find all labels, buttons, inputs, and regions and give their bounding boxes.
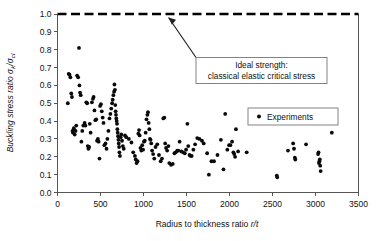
x-axis-title: Radius to thickness ratio r/t <box>156 219 259 229</box>
data-point <box>236 150 240 154</box>
data-point <box>117 142 121 146</box>
x-tick-label: 2500 <box>263 199 282 209</box>
data-point <box>74 129 78 133</box>
y-tick-label: 0.0 <box>40 188 52 198</box>
scatter-chart: 0.00.10.20.30.40.50.60.70.80.91.0 050010… <box>0 0 382 241</box>
data-point <box>118 150 122 154</box>
x-tick-label: 0 <box>55 199 60 209</box>
data-point <box>245 150 249 154</box>
data-point <box>141 148 145 152</box>
data-point <box>100 109 104 113</box>
data-point <box>151 152 155 156</box>
arrow-head-icon <box>169 18 177 25</box>
data-point <box>110 101 114 105</box>
data-point <box>147 127 151 131</box>
data-point <box>97 140 101 144</box>
data-point <box>127 137 131 141</box>
data-point <box>113 103 117 107</box>
data-point <box>212 159 216 163</box>
data-point <box>131 150 135 154</box>
y-tick-label: 0.3 <box>40 134 52 144</box>
data-point <box>119 133 123 137</box>
annotation-leader-arrow <box>169 18 197 58</box>
data-point <box>109 107 113 111</box>
data-point <box>93 108 97 112</box>
legend-label: Experiments <box>267 112 313 122</box>
data-point <box>190 154 194 158</box>
x-tick-labels: 0500100015002000250030003500 <box>55 199 368 209</box>
y-tick-label: 0.2 <box>40 152 52 162</box>
data-point <box>108 112 112 116</box>
data-point <box>137 128 141 132</box>
data-point <box>304 142 308 146</box>
data-point <box>87 145 91 149</box>
data-point <box>193 142 197 146</box>
data-point <box>89 131 93 135</box>
y-tick-label: 0.5 <box>40 98 52 108</box>
data-point <box>133 154 137 158</box>
data-point <box>136 159 140 163</box>
data-point <box>92 95 96 99</box>
data-point <box>90 100 94 104</box>
y-tick-label: 0.4 <box>40 116 52 126</box>
data-point <box>178 140 182 144</box>
data-point <box>102 121 106 125</box>
plot-frame <box>58 14 359 193</box>
data-point <box>225 148 229 152</box>
data-point <box>146 110 150 114</box>
data-point <box>219 138 223 142</box>
annotation-line-1: Ideal strength: <box>235 60 288 70</box>
data-point <box>144 131 148 135</box>
y-tick-label: 0.1 <box>40 170 52 180</box>
data-point <box>150 149 154 153</box>
data-point <box>115 127 119 131</box>
data-point <box>160 157 164 161</box>
data-point <box>118 154 122 158</box>
data-point <box>84 124 88 128</box>
data-point <box>114 109 118 113</box>
data-point <box>222 167 226 171</box>
data-point <box>183 151 187 155</box>
data-point <box>69 75 73 79</box>
data-point <box>292 147 296 151</box>
data-point <box>191 148 195 152</box>
data-point <box>114 113 118 117</box>
data-point <box>130 141 134 145</box>
data-point <box>78 84 82 88</box>
data-point <box>76 75 80 79</box>
x-tick-label: 500 <box>93 199 107 209</box>
data-point <box>98 157 102 161</box>
data-point <box>101 116 105 120</box>
data-point <box>111 98 115 102</box>
data-point <box>202 142 206 146</box>
x-tick-label: 3000 <box>306 199 325 209</box>
data-point <box>80 140 84 144</box>
data-point <box>73 133 77 137</box>
data-point <box>207 173 211 177</box>
data-point <box>318 164 322 168</box>
data-point <box>155 142 159 146</box>
data-point <box>115 122 119 126</box>
data-point <box>291 142 295 146</box>
data-point <box>330 131 334 135</box>
data-point <box>138 133 142 137</box>
data-point <box>70 95 74 99</box>
data-point <box>286 149 290 153</box>
x-tick-label: 1000 <box>134 199 153 209</box>
data-point <box>120 139 124 143</box>
data-point <box>77 46 81 50</box>
data-point <box>205 151 209 155</box>
data-point <box>163 142 167 146</box>
data-point <box>94 117 98 121</box>
data-point <box>69 92 73 96</box>
data-point <box>171 162 175 166</box>
data-point <box>112 93 116 97</box>
data-point <box>233 155 237 159</box>
data-point <box>105 147 109 151</box>
y-axis-title: Buckling stress ratio σk/σcl <box>5 53 16 152</box>
data-point <box>113 88 117 92</box>
data-point <box>167 144 171 148</box>
data-point <box>140 143 144 147</box>
data-point <box>104 142 108 146</box>
y-tick-label: 1.0 <box>40 9 52 19</box>
